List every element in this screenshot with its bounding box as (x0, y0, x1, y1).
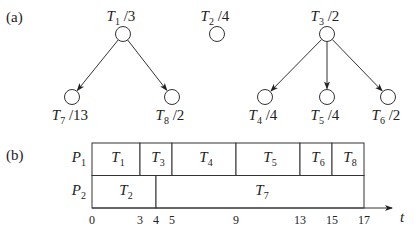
task-node-t2: T2 /4 (201, 8, 230, 42)
tick-label-15: 15 (326, 213, 338, 227)
node-label: T2 /4 (201, 8, 230, 27)
gantt-task-t6: T6 (300, 143, 332, 176)
task-node-t1: T1 /3 (107, 8, 136, 42)
tick-label-3: 3 (137, 213, 143, 227)
node-label: T5 /4 (311, 107, 340, 126)
task-node-t7: T7 /13 (52, 90, 88, 127)
node-label: T7 /13 (52, 107, 88, 126)
tick-label-4: 4 (153, 213, 159, 227)
processor-label-1: P1 (71, 149, 86, 168)
gantt-chart-panel: (b)P1T1T3T4T5T6T8P2T2T7t03459131517 (6, 143, 405, 227)
panel-a-label: (a) (6, 9, 23, 26)
edge-t3-t6 (332, 39, 382, 91)
gantt-task-t2: T2 (92, 176, 156, 209)
edge-t3-t4 (271, 39, 322, 91)
gantt-task-t8: T8 (332, 143, 364, 176)
gantt-task-t3: T3 (140, 143, 172, 176)
node-label: T6 /2 (372, 107, 401, 126)
gantt-task-t4: T4 (172, 143, 236, 176)
task-node-t3: T3 /2 (311, 8, 340, 42)
gantt-task-t7: T7 (156, 176, 364, 209)
tick-label-0: 0 (89, 213, 95, 227)
node-label: T4 /4 (249, 107, 278, 126)
task-node-t8: T8 /2 (156, 90, 185, 127)
node-circle (116, 27, 131, 42)
tick-label-13: 13 (294, 213, 306, 227)
node-circle (258, 90, 273, 105)
node-label: T8 /2 (156, 107, 185, 126)
processor-label-2: P2 (71, 182, 86, 201)
gantt-task-t5: T5 (236, 143, 300, 176)
task-scheduling-figure: (a)T1 /3T2 /4T3 /2T7 /13T8 /2T4 /4T5 /4T… (0, 0, 419, 238)
time-axis-label: t (400, 209, 405, 225)
panel-b-label: (b) (6, 147, 24, 164)
node-circle (65, 90, 80, 105)
tick-label-9: 9 (233, 213, 239, 227)
tick-label-17: 17 (358, 213, 370, 227)
node-circle (320, 27, 335, 42)
tick-label-5: 5 (169, 213, 175, 227)
node-circle (320, 90, 335, 105)
node-circle (210, 27, 225, 42)
gantt-task-t1: T1 (92, 143, 140, 176)
task-node-t6: T6 /2 (372, 90, 401, 127)
node-circle (381, 90, 396, 105)
node-circle (165, 90, 180, 105)
node-label: T1 /3 (107, 8, 136, 27)
task-node-t5: T5 /4 (311, 90, 340, 127)
edge-t1-t7 (77, 40, 118, 91)
node-label: T3 /2 (311, 8, 340, 27)
task-node-t4: T4 /4 (249, 90, 278, 127)
task-graph-panel: (a)T1 /3T2 /4T3 /2T7 /13T8 /2T4 /4T5 /4T… (6, 8, 400, 126)
edge-t1-t8 (128, 40, 167, 90)
